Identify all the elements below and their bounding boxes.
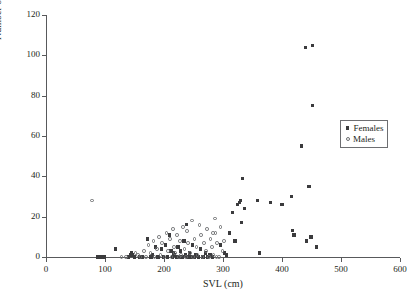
data-point-females: [199, 247, 202, 250]
data-point-females: [315, 245, 318, 248]
y-axis-title: Number of Scars: [0, 0, 3, 40]
data-point-males: [210, 245, 214, 249]
data-point-males: [202, 241, 206, 245]
data-point-males: [198, 223, 202, 227]
data-point-females: [290, 195, 293, 198]
data-point-males: [213, 217, 217, 221]
data-point-males: [178, 239, 182, 243]
data-point-females: [239, 199, 242, 202]
data-point-females: [292, 233, 295, 236]
data-point-males: [147, 243, 151, 247]
x-tick-mark: [223, 258, 224, 262]
data-point-females: [166, 255, 169, 258]
y-tick-mark: [42, 136, 46, 137]
x-tick-mark: [46, 258, 47, 262]
x-axis-title: SVL (cm): [46, 278, 400, 289]
data-point-males: [171, 227, 175, 231]
x-tick-label: 300: [203, 265, 243, 274]
data-point-males: [222, 239, 226, 243]
data-point-females: [219, 243, 222, 246]
x-tick-label: 400: [262, 265, 302, 274]
y-axis-spine: [46, 15, 47, 258]
y-tick-label: 60: [12, 131, 40, 140]
data-point-females: [304, 46, 307, 49]
data-point-males: [215, 255, 219, 259]
data-point-males: [191, 255, 195, 259]
data-point-males: [186, 241, 190, 245]
data-point-females: [114, 247, 117, 250]
data-point-males: [207, 255, 211, 259]
legend-item-males: Males: [344, 134, 383, 145]
data-point-males: [149, 251, 153, 255]
data-point-females: [168, 233, 171, 236]
legend-label-females: Females: [353, 123, 383, 134]
data-point-males: [188, 251, 192, 255]
data-point-males: [152, 239, 156, 243]
data-point-males: [205, 227, 209, 231]
legend-label-males: Males: [353, 134, 375, 145]
x-tick-label: 0: [26, 265, 66, 274]
data-point-females: [185, 223, 188, 226]
data-point-males: [153, 255, 157, 259]
data-point-females: [228, 231, 231, 234]
data-point-females: [240, 221, 243, 224]
data-point-males: [185, 229, 189, 233]
x-tick-label: 200: [144, 265, 184, 274]
data-point-males: [139, 255, 143, 259]
data-point-males: [159, 253, 163, 257]
data-point-males: [215, 241, 219, 245]
data-point-females: [233, 239, 236, 242]
data-point-males: [168, 237, 172, 241]
data-point-males: [204, 249, 208, 253]
data-point-females: [182, 239, 185, 242]
y-tick-label: 120: [12, 10, 40, 19]
data-point-females: [146, 237, 149, 240]
data-point-females: [191, 243, 194, 246]
data-point-males: [190, 219, 194, 223]
data-point-males: [90, 199, 94, 203]
data-point-males: [221, 249, 225, 253]
data-point-females: [269, 201, 272, 204]
data-point-males: [183, 247, 187, 251]
y-tick-label: 20: [12, 212, 40, 221]
data-point-females: [241, 177, 244, 180]
data-point-females: [305, 239, 308, 242]
y-tick-mark: [42, 15, 46, 16]
data-point-males: [173, 251, 177, 255]
x-tick-label: 100: [85, 265, 125, 274]
legend-item-females: Females: [344, 123, 383, 134]
y-tick-mark: [42, 176, 46, 177]
scatter-plot-figure: Number of Scars 020406080100120 01002003…: [0, 0, 408, 304]
data-point-males: [181, 225, 185, 229]
data-point-females: [311, 104, 314, 107]
data-point-females: [311, 44, 314, 47]
data-point-males: [199, 233, 203, 237]
data-point-females: [225, 253, 228, 256]
y-tick-mark: [42, 96, 46, 97]
data-point-females: [307, 185, 310, 188]
data-point-males: [179, 253, 183, 257]
data-point-females: [160, 247, 163, 250]
data-point-females: [176, 245, 179, 248]
filled-square-icon: [346, 126, 349, 129]
y-tick-label: 0: [12, 252, 40, 261]
x-tick-label: 500: [321, 265, 361, 274]
data-point-males: [157, 235, 161, 239]
data-point-males: [142, 249, 146, 253]
legend: Females Males: [340, 120, 388, 148]
data-point-males: [172, 245, 176, 249]
data-point-females: [164, 243, 167, 246]
open-circle-icon: [346, 137, 350, 141]
data-point-males: [209, 237, 213, 241]
data-point-males: [201, 255, 205, 259]
y-tick-label: 40: [12, 171, 40, 180]
data-point-males: [195, 245, 199, 249]
y-tick-label: 80: [12, 91, 40, 100]
x-tick-mark: [400, 258, 401, 262]
y-tick-mark: [42, 55, 46, 56]
data-point-males: [144, 255, 148, 259]
data-point-males: [166, 249, 170, 253]
x-tick-mark: [282, 258, 283, 262]
data-point-males: [120, 255, 124, 259]
data-point-females: [280, 203, 283, 206]
